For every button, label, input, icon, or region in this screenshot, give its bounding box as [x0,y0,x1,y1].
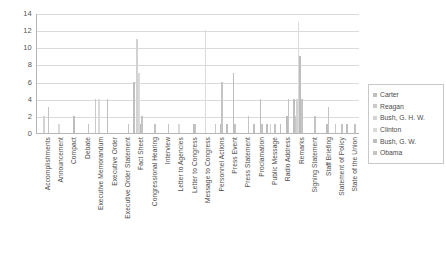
bar [215,124,217,133]
bar [205,30,207,133]
bar-group [78,14,91,133]
x-axis-label-slot: Personnel Actions [211,135,224,267]
legend-item[interactable]: Bush, G. H. W. [373,112,440,124]
bar [58,124,60,133]
bar-group [91,14,104,133]
bar [141,116,143,133]
x-axis-label-slot: Letter to Agencies [171,135,184,267]
legend-item[interactable]: Clinton [373,124,440,136]
bar-group [131,14,144,133]
bar [168,124,170,133]
bar-group [65,14,78,133]
bar [154,124,156,133]
bar-group [211,14,224,133]
bar [261,124,263,133]
legend-label: Carter [380,91,399,98]
x-axis-label-slot: Fact Sheet [131,135,144,267]
x-axis-label-slot: Accomplishments [37,135,50,267]
bar-chart: 14121086420 AccomplishmentsAnnouncementC… [0,0,446,267]
bar [221,82,223,133]
y-axis-tick: 4 [2,96,32,104]
bar [346,124,348,133]
x-axis-label-slot: Debate [77,135,90,267]
bar [48,107,50,133]
bar [280,124,282,133]
legend-swatch-icon [373,116,377,120]
x-axis-label-slot: Proclamation [251,135,264,267]
y-axis-tick: 10 [2,44,32,52]
bar [288,99,290,133]
x-axis-label-slot: Statement of Policy [331,135,344,267]
x-axis-label-slot: Letter to Congress [184,135,197,267]
bar [133,82,135,133]
x-axis-label-slot: State of the Union [345,135,358,267]
bar [226,124,228,133]
legend-item[interactable]: Bush, G. W. [373,135,440,147]
bars-layer [37,14,359,133]
legend-label: Reagan [380,103,404,110]
bar-group [105,14,118,133]
bar [194,124,196,133]
x-axis-label-slot: Signing Statement [305,135,318,267]
x-axis-label-slot: Congressional Hearing [144,135,157,267]
x-axis-label-slot: Interview [157,135,170,267]
bar [73,116,75,133]
x-axis-label-slot: Press Statement [238,135,251,267]
bar-group [238,14,251,133]
bar [253,124,255,133]
x-axis-label-slot: Press Event [224,135,237,267]
legend-item[interactable]: Obama [373,147,440,159]
x-axis-label-slot: Announcement [50,135,63,267]
bar-group [118,14,131,133]
x-axis-label-slot: Remarks [291,135,304,267]
bar-group [171,14,184,133]
x-axis-label-slot: Executive Memorandum [91,135,104,267]
bar [266,124,268,133]
legend-label: Bush, G. W. [380,138,416,145]
bar [314,116,316,133]
bar [43,116,45,133]
x-axis-label-slot: Message to Congress [198,135,211,267]
bar-group [251,14,264,133]
x-axis-labels: AccomplishmentsAnnouncementCompactDebate… [36,135,359,267]
bar-group [158,14,171,133]
bar [128,124,130,133]
bar-group [225,14,238,133]
bar [178,124,180,133]
bar [95,99,97,133]
bar-group [278,14,291,133]
bar-group [305,14,318,133]
y-axis-tick: 2 [2,113,32,121]
bar [328,107,330,133]
bar-group [185,14,198,133]
bar [107,99,109,133]
chart-legend: CarterReaganBush, G. H. W.ClintonBush, G… [368,84,444,164]
bar [274,124,276,133]
bar-group [345,14,358,133]
y-axis-tick: 12 [2,27,32,35]
bar-group [318,14,331,133]
bar [234,124,236,133]
x-axis-label-slot: Compact [64,135,77,267]
x-axis-label: State of the Union [351,137,358,192]
y-axis-tick: 0 [2,130,32,138]
bar-group [51,14,64,133]
legend-label: Obama [380,149,402,156]
legend-swatch-icon [373,104,377,108]
legend-swatch-icon [373,93,377,97]
bar [270,124,272,133]
bar [301,99,303,133]
y-axis: 14121086420 [0,14,36,134]
legend-item[interactable]: Carter [373,89,440,101]
bar-group [265,14,278,133]
legend-swatch-icon [373,139,377,143]
legend-swatch-icon [373,151,377,155]
x-axis-label-slot: Staff Briefing [318,135,331,267]
bar-group [145,14,158,133]
legend-swatch-icon [373,128,377,132]
y-axis-tick: 8 [2,61,32,69]
x-axis-label-slot: Executive Order Statement [117,135,130,267]
legend-item[interactable]: Reagan [373,101,440,113]
legend-label: Bush, G. H. W. [380,114,425,121]
x-axis-label-slot: Executive Order [104,135,117,267]
